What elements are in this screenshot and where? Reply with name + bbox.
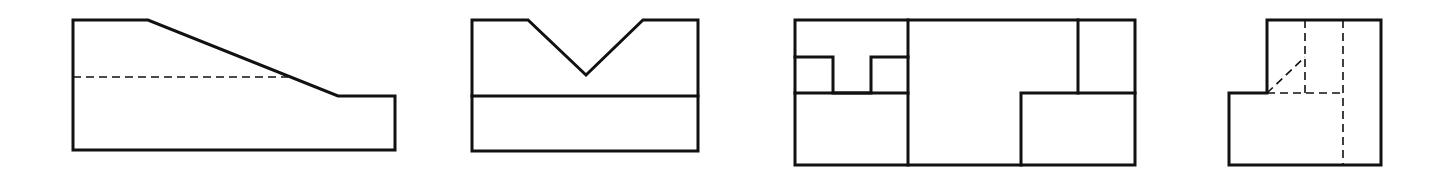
- visible-edge-line: [795, 57, 908, 93]
- drawing-canvas: [0, 0, 1446, 181]
- v-groove-block-view-outline: [472, 20, 698, 151]
- hidden-edge-line: [1267, 57, 1305, 93]
- view-1: [73, 20, 395, 150]
- view-4: [1229, 20, 1381, 165]
- view-2: [472, 20, 698, 151]
- visible-edge-line: [1021, 93, 1135, 165]
- sloped-block-view-outline: [73, 20, 395, 150]
- view-3: [795, 20, 1135, 165]
